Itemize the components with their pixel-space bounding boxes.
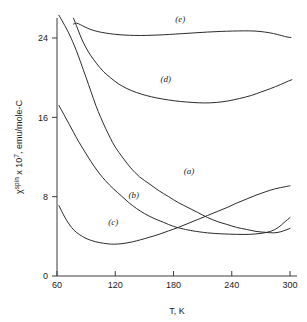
figure-container: 081624 60120180240300 (a)(b)(c)(d)(e) T,… xyxy=(0,0,307,322)
y-tick-label-0: 0 xyxy=(43,271,48,281)
susceptibility-line-chart: 081624 60120180240300 (a)(b)(c)(d)(e) T,… xyxy=(0,0,307,322)
y-tick-label-24: 24 xyxy=(38,33,48,43)
curve-b xyxy=(59,105,290,234)
x-tick-label-60: 60 xyxy=(52,280,62,290)
curve-label-d: (d) xyxy=(160,74,171,84)
curve-a xyxy=(59,15,290,233)
y-tick-group: 081624 xyxy=(38,33,57,281)
x-axis-title: T, K xyxy=(169,306,185,316)
y-axis-title-tail: , emu/mole-C xyxy=(14,100,24,155)
x-tick-label-180: 180 xyxy=(166,280,181,290)
x-tick-label-300: 300 xyxy=(282,280,297,290)
y-tick-label-8: 8 xyxy=(43,192,48,202)
y-axis-title-mid: x 10 xyxy=(14,158,24,178)
curve-d xyxy=(74,18,292,103)
curves-group xyxy=(59,15,292,244)
x-tick-group: 60120180240300 xyxy=(52,271,298,290)
y-axis-title: χspin x 107, emu/mole-C xyxy=(13,100,25,194)
x-tick-label-240: 240 xyxy=(224,280,239,290)
y-axis-title-chi-sup: spin xyxy=(13,177,21,189)
curve-label-c: (c) xyxy=(108,217,118,227)
curve-label-e: (e) xyxy=(175,14,185,24)
curve-c xyxy=(59,186,290,244)
curve-label-b: (b) xyxy=(128,190,139,200)
curve-e xyxy=(74,23,291,37)
x-tick-label-120: 120 xyxy=(108,280,123,290)
y-tick-label-16: 16 xyxy=(38,113,48,123)
curve-label-a: (a) xyxy=(184,166,195,176)
svg-text:χspin x 107, emu/mole-C: χspin x 107, emu/mole-C xyxy=(13,100,25,194)
axes-group xyxy=(57,18,297,276)
